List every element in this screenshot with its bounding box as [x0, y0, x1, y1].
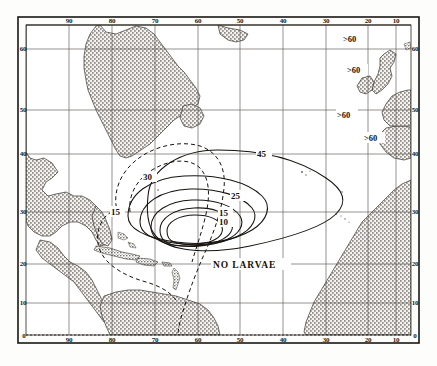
abundance-label-3-group: >60 [336, 109, 358, 120]
annotation-no-larvae: NO LARVAE [213, 260, 276, 270]
abundance-label-3: >60 [337, 110, 350, 120]
top-tick-60: 60 [195, 17, 202, 25]
right-tick-40: 40 [412, 150, 419, 158]
contour-label-15-west-group: 15 [110, 206, 125, 217]
right-tick-50: 50 [412, 106, 419, 114]
bottom-tick-20: 20 [365, 336, 372, 344]
top-tick-40: 40 [280, 17, 287, 25]
bottom-tick-60: 60 [195, 336, 202, 344]
contour-label-30: 30 [143, 172, 153, 182]
contour-label-30-group: 30 [142, 171, 157, 182]
left-tick-10: 10 [20, 299, 27, 307]
left-tick-30: 30 [20, 208, 27, 216]
top-tick-70: 70 [152, 17, 159, 25]
annotation-no-larvae-group: NO LARVAE [211, 258, 291, 270]
contour-label-25-group: 25 [230, 190, 245, 201]
abundance-label-1-group: >60 [342, 33, 364, 44]
bottom-tick-70: 70 [152, 336, 159, 344]
contour-label-15-west: 15 [111, 207, 121, 217]
left-tick-40: 40 [20, 150, 27, 158]
contour-label-10: 10 [219, 217, 229, 227]
bottom-tick-90: 90 [66, 336, 73, 344]
left-tick-20: 20 [20, 260, 27, 268]
contour-label-25: 25 [231, 191, 241, 201]
atlantic-larvae-contour-map: 45 30 25 15 15 10 [0, 0, 437, 366]
bottom-tick-30: 30 [323, 336, 330, 344]
right-tick-60: 60 [412, 45, 419, 53]
right-tick-10: 10 [412, 299, 419, 307]
left-tick-60: 60 [20, 45, 27, 53]
bottom-tick-50: 50 [237, 336, 244, 344]
left-tick-50: 50 [20, 106, 27, 114]
right-tick-30: 30 [412, 208, 419, 216]
abundance-label-4-group: >60 [363, 132, 385, 143]
abundance-label-2: >60 [347, 65, 360, 75]
top-tick-50: 50 [237, 17, 244, 25]
abundance-label-4: >60 [364, 133, 377, 143]
abundance-label-1: >60 [343, 34, 356, 44]
top-tick-90: 90 [66, 17, 73, 25]
contour-label-45: 45 [257, 149, 267, 159]
bottom-tick-10: 10 [393, 336, 400, 344]
top-tick-30: 30 [323, 17, 330, 25]
top-tick-80: 80 [109, 17, 116, 25]
bottom-tick-80: 80 [109, 336, 116, 344]
contour-label-45-group: 45 [256, 148, 272, 159]
right-tick-20: 20 [412, 260, 419, 268]
abundance-label-2-group: >60 [346, 64, 368, 75]
top-tick-10: 10 [393, 17, 400, 25]
contour-label-10-group: 10 [218, 216, 233, 227]
bottom-tick-40: 40 [280, 336, 287, 344]
top-tick-20: 20 [365, 17, 372, 25]
figure-container: 45 30 25 15 15 10 [0, 0, 437, 366]
